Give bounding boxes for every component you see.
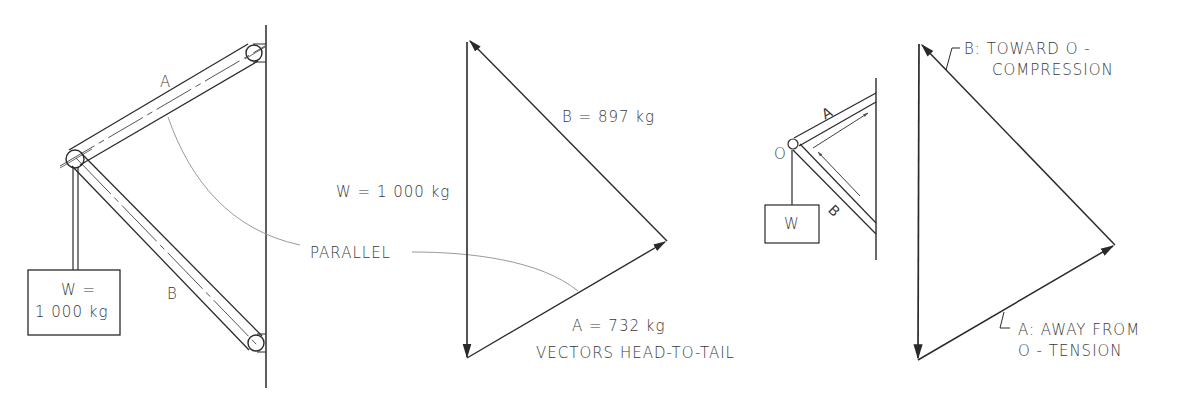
member-a-bar	[60, 44, 265, 166]
small-member-b-label: B	[825, 202, 844, 221]
small-member-a-label: A	[819, 103, 836, 122]
w-value-label: W = 1 000 kg	[336, 183, 450, 201]
member-a-label: A	[160, 73, 171, 91]
small-truss-diagram: W O A B	[765, 78, 876, 260]
b-value-label: B = 897 kg	[562, 108, 655, 126]
vector-triangle: W = 1 000 kg B = 897 kg A = 732 kg PARAL…	[310, 41, 735, 362]
parallel-leaders	[168, 117, 578, 291]
small-weight-label: W	[784, 215, 800, 233]
force-diagram-figure: W = 1 000 kg A B W = 1 000 kg B = 897 kg…	[0, 0, 1177, 396]
a-value-label: A = 732 kg	[572, 317, 665, 335]
top-pin-icon	[246, 45, 262, 61]
parallel-label: PARALLEL	[310, 244, 391, 262]
bottom-pin-icon	[248, 335, 264, 351]
a-tension-line1: A: AWAY FROM	[1018, 321, 1140, 339]
weight-label-line2: 1 000 kg	[35, 303, 108, 321]
tension-compression-triangle: B: TOWARD O - COMPRESSION A: AWAY FROM O…	[918, 40, 1140, 360]
b-vector	[470, 41, 667, 241]
a-vector	[467, 242, 665, 358]
joint-o-pin-icon	[788, 139, 798, 149]
joint-o-label: O	[774, 145, 787, 163]
weight-label-line1: W =	[61, 281, 96, 299]
member-b-label: B	[167, 285, 178, 303]
caption-vectors-head-to-tail: VECTORS HEAD-TO-TAIL	[536, 344, 735, 362]
b-compression-line2: COMPRESSION	[992, 61, 1114, 79]
b-compression-line1: B: TOWARD O -	[964, 40, 1091, 58]
left-truss-diagram: W = 1 000 kg A B	[28, 25, 266, 388]
a-tension-line2: O - TENSION	[1018, 342, 1123, 360]
